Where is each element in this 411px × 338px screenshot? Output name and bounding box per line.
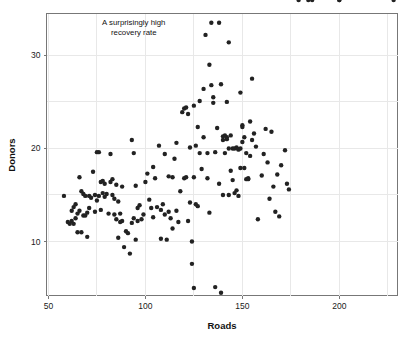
y-tick-label: 20 bbox=[31, 143, 41, 153]
data-point bbox=[118, 211, 122, 215]
data-point bbox=[130, 138, 134, 142]
data-point bbox=[283, 148, 287, 152]
data-point bbox=[77, 209, 81, 213]
data-point bbox=[211, 95, 215, 99]
data-point bbox=[261, 152, 265, 156]
data-point bbox=[73, 216, 77, 220]
data-point bbox=[149, 206, 153, 210]
data-point bbox=[168, 216, 172, 220]
data-point bbox=[217, 182, 221, 186]
data-point bbox=[97, 150, 101, 154]
data-point bbox=[250, 76, 254, 80]
data-point bbox=[128, 251, 132, 255]
data-point bbox=[71, 222, 75, 226]
data-point bbox=[229, 133, 233, 137]
data-point bbox=[155, 205, 159, 209]
data-point bbox=[174, 209, 178, 213]
data-point bbox=[238, 146, 242, 150]
data-point bbox=[234, 188, 238, 192]
data-point bbox=[273, 210, 277, 214]
data-point bbox=[79, 230, 83, 234]
data-point bbox=[116, 236, 120, 240]
data-point bbox=[192, 175, 196, 179]
data-point bbox=[147, 197, 151, 201]
data-point bbox=[85, 235, 89, 239]
data-point bbox=[256, 217, 260, 221]
data-point bbox=[240, 123, 244, 127]
data-point bbox=[201, 135, 205, 139]
data-point bbox=[205, 151, 209, 155]
data-point bbox=[176, 220, 180, 224]
data-point bbox=[252, 131, 256, 135]
data-point bbox=[170, 226, 174, 230]
data-point bbox=[238, 166, 242, 170]
data-point bbox=[242, 135, 246, 139]
data-point bbox=[77, 175, 81, 179]
data-point bbox=[87, 206, 91, 210]
y-axis-title: Donors bbox=[6, 138, 17, 171]
data-point bbox=[141, 212, 145, 216]
data-point bbox=[198, 151, 202, 155]
data-point bbox=[89, 196, 93, 200]
data-point bbox=[102, 182, 106, 186]
data-point bbox=[269, 130, 273, 134]
data-point bbox=[227, 193, 231, 197]
x-tick-label: 150 bbox=[235, 301, 249, 311]
x-tick-label: 100 bbox=[138, 301, 152, 311]
data-point bbox=[130, 221, 134, 225]
data-point bbox=[238, 90, 242, 94]
data-point bbox=[246, 177, 250, 181]
data-point bbox=[134, 183, 138, 187]
data-point bbox=[97, 194, 101, 198]
data-point bbox=[110, 177, 114, 181]
data-point bbox=[219, 82, 223, 86]
data-point bbox=[116, 199, 120, 203]
data-point bbox=[190, 239, 194, 243]
data-point bbox=[132, 216, 136, 220]
data-point bbox=[178, 189, 182, 193]
data-point bbox=[163, 212, 167, 216]
data-point bbox=[166, 174, 170, 178]
data-point bbox=[271, 184, 275, 188]
data-point bbox=[203, 33, 207, 37]
data-point bbox=[219, 291, 223, 295]
data-point bbox=[199, 167, 203, 171]
data-point bbox=[163, 152, 167, 156]
data-point bbox=[166, 210, 170, 214]
data-point bbox=[198, 99, 202, 103]
data-point bbox=[153, 176, 157, 180]
data-point bbox=[250, 138, 254, 142]
data-point bbox=[190, 262, 194, 266]
data-point bbox=[213, 150, 217, 154]
data-point bbox=[73, 202, 77, 206]
data-point bbox=[217, 21, 221, 25]
data-point bbox=[157, 143, 161, 147]
data-point bbox=[93, 193, 97, 197]
data-point bbox=[225, 135, 229, 139]
data-point bbox=[230, 178, 234, 182]
data-point bbox=[143, 180, 147, 184]
data-point bbox=[279, 163, 283, 167]
data-point bbox=[188, 200, 192, 204]
data-point bbox=[70, 209, 74, 213]
data-point bbox=[184, 105, 188, 109]
data-point bbox=[201, 87, 205, 91]
data-point bbox=[101, 191, 105, 195]
data-point bbox=[112, 212, 116, 216]
data-point bbox=[170, 175, 174, 179]
data-point bbox=[267, 197, 271, 201]
y-tick-label: 30 bbox=[31, 50, 41, 60]
data-point bbox=[134, 237, 138, 241]
data-point bbox=[145, 171, 149, 175]
y-tick-label: 10 bbox=[31, 237, 41, 247]
data-point bbox=[83, 194, 87, 198]
data-point bbox=[205, 176, 209, 180]
data-point bbox=[114, 217, 118, 221]
x-tick-label: 200 bbox=[332, 301, 346, 311]
data-point bbox=[159, 208, 163, 212]
data-point bbox=[135, 219, 139, 223]
data-point bbox=[126, 231, 130, 235]
data-point bbox=[159, 237, 163, 241]
data-point bbox=[137, 203, 141, 207]
data-point bbox=[194, 143, 198, 147]
